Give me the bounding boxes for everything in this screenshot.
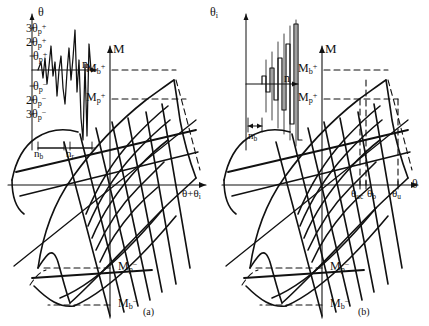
panel-b-x-axis-label: θ <box>412 178 418 190</box>
inset-b-y-axis-label: θi <box>210 6 218 20</box>
panel-b-moment-mb-plus: Mb+ <box>298 62 317 76</box>
panel-b-rotation-theta-u: θu <box>392 188 401 201</box>
inset-b-interval-nb: nb <box>248 130 257 143</box>
panel-a-y-axis-label: M <box>113 42 125 55</box>
panel-a-moment-mb-plus: Mb+ <box>86 62 105 76</box>
panel-a-tag: (a) <box>143 307 154 317</box>
inset-a-ytick-2: θp+ <box>33 50 47 64</box>
panel-a-x-axis-label: θ+θi <box>182 188 201 201</box>
panel-b-rotation-theta-uc: θuc <box>351 188 363 201</box>
inset-b-x-axis-label: n <box>284 72 290 84</box>
inset-a-interval-nb: nb <box>34 148 43 161</box>
figure-canvas <box>0 0 429 326</box>
panel-a-moment-mp-plus: Mp+ <box>86 91 105 105</box>
panel-b-tag: (b) <box>358 307 370 317</box>
inset-a-interval-nr: nr <box>66 148 74 161</box>
panel-a-moment-mb-minus: Mb− <box>118 297 137 311</box>
panel-b-y-axis-label: M <box>325 42 337 55</box>
panel-b-moment-mb-minus: Mb− <box>330 297 349 311</box>
panel-b-moment-mp-plus: Mp+ <box>298 91 317 105</box>
panel-a-moment-mp-minus: Mp− <box>118 260 137 274</box>
figure-root: 3θp+ 2θp+ θp+ θp− 2θp− 3θp− θ n nb nr M … <box>0 0 429 326</box>
inset-a-ytick-5: 3θp− <box>26 108 46 122</box>
panel-b-hysteresis-curves <box>224 80 410 316</box>
panel-b-moment-mp-minus: Mp− <box>330 260 349 274</box>
panel-b-rotation-theta-b: θb <box>367 188 376 201</box>
inset-a-y-axis-label: θ <box>38 6 44 18</box>
